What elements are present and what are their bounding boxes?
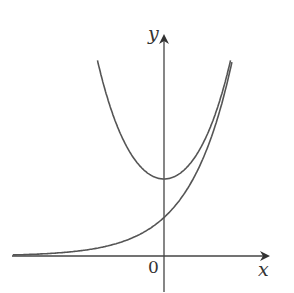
y-axis-label: y xyxy=(148,22,159,44)
exponential-curve xyxy=(13,62,232,255)
plot-svg xyxy=(0,0,294,293)
diagram: y x 0 xyxy=(0,0,294,293)
origin-label: 0 xyxy=(148,257,159,277)
x-axis-label: x xyxy=(258,258,269,280)
